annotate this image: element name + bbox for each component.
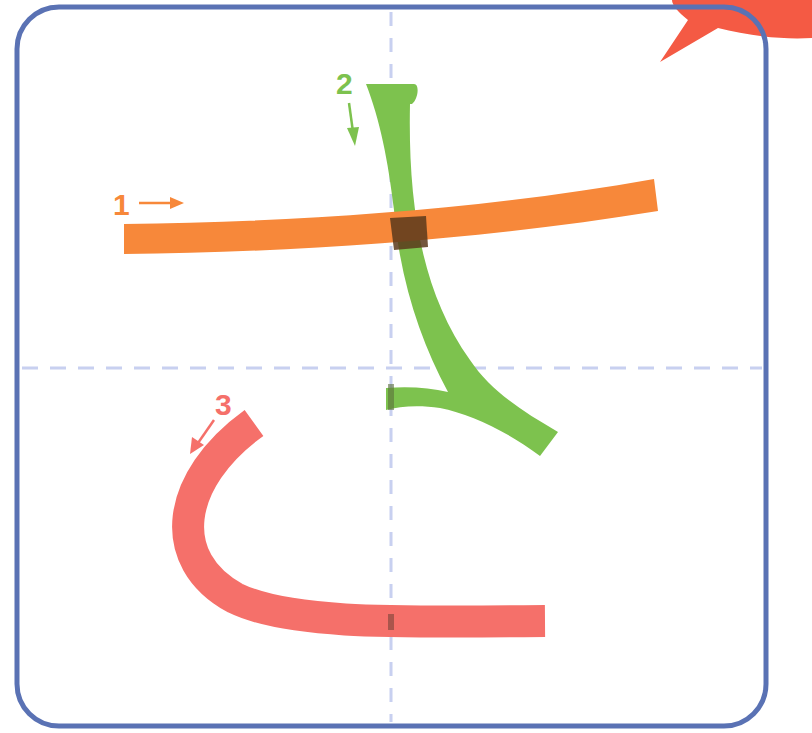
stroke-1-number: 1 [113, 188, 130, 221]
arrow-right-head [170, 197, 184, 209]
stroke-overlap [390, 216, 428, 250]
stroke-3-number: 3 [215, 388, 232, 421]
stroke-1 [124, 179, 658, 254]
stroke-order-diagram: 1 2 3 [0, 0, 812, 733]
stroke-2 [366, 84, 558, 456]
stroke-3 [188, 423, 545, 622]
stroke-2-label-group: 2 [336, 67, 359, 146]
stroke-2-number: 2 [336, 67, 353, 100]
stroke-2-body [366, 84, 558, 456]
guide-mark-red [388, 614, 394, 630]
stroke-1-label-group: 1 [113, 188, 184, 221]
arrow-down-head [347, 127, 359, 146]
guide-mark-green [388, 384, 394, 410]
